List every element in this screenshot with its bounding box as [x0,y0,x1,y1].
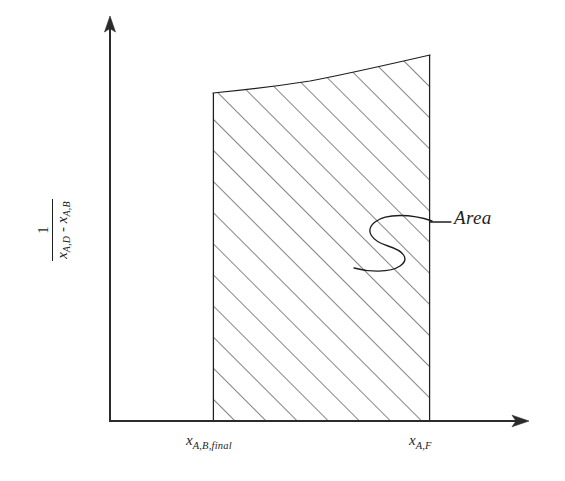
figure-root: 1 xA,D - xA,B xA,B,final xA,F Area [0,0,565,481]
x-tick-left-var: x [186,432,193,448]
x-tick-left-subscript: A,B,final [193,440,232,451]
y-axis-denominator: xA,D - xA,B [53,199,70,261]
shaded-area-region [213,55,430,421]
x-tick-right-subscript: A,F [416,440,432,451]
denominator-var-2: x [54,217,70,224]
y-axis-label: 1 xA,D - xA,B [36,165,70,295]
area-annotation-label: Area [454,208,491,227]
denominator-subscript-1: A,D [61,236,72,252]
denominator-subscript-2: A,B [61,201,72,216]
y-axis-numerator: 1 [36,199,52,261]
x-tick-label-left: xA,B,final [186,432,232,448]
denominator-var-1: x [54,252,70,259]
denominator-minus: - [54,223,70,236]
area-hatch-fill [213,55,430,421]
y-axis-fraction: 1 xA,D - xA,B [36,199,70,261]
x-tick-label-right: xA,F [409,432,432,448]
x-tick-right-var: x [409,432,416,448]
diagram-canvas [0,0,565,481]
